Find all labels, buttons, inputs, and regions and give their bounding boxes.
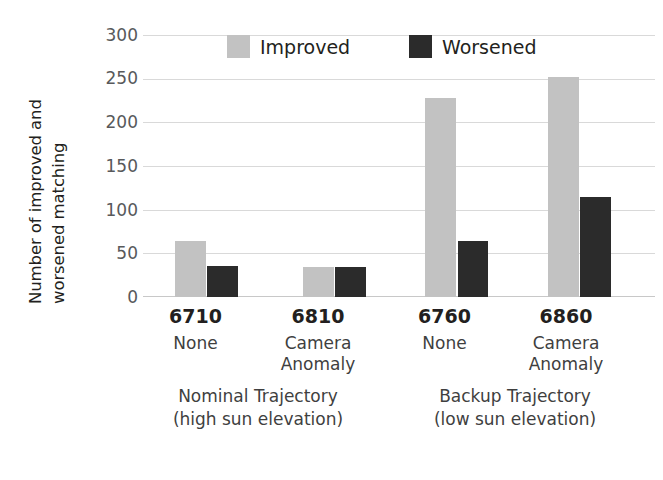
y-tick-250: 250 xyxy=(10,68,138,88)
legend-item-worsened: Worsened xyxy=(409,35,537,58)
bar-improved-6760 xyxy=(425,98,456,297)
x-group-note-backup: (low sun elevation) xyxy=(390,408,640,431)
bar-improved-6810 xyxy=(303,267,334,297)
legend-label-worsened: Worsened xyxy=(442,36,537,58)
y-tick-200: 200 xyxy=(10,112,138,132)
x-category-subtitle-6810: Camera Anomaly xyxy=(268,333,368,375)
y-tick-0: 0 xyxy=(10,287,138,307)
plot-area: Improved Worsened xyxy=(143,35,655,297)
y-tick-100: 100 xyxy=(10,200,138,220)
x-category-id-6710: 6710 xyxy=(143,304,248,329)
bar-worsened-6710 xyxy=(207,266,238,297)
x-category-id-6810: 6810 xyxy=(268,304,368,329)
legend-label-improved: Improved xyxy=(260,36,350,58)
x-category-6710: 6710 None xyxy=(143,304,248,354)
y-tick-50: 50 xyxy=(10,243,138,263)
x-group-note-nominal: (high sun elevation) xyxy=(133,408,383,431)
y-tick-150: 150 xyxy=(10,156,138,176)
x-category-id-6860: 6860 xyxy=(516,304,616,329)
x-category-6860: 6860 Camera Anomaly xyxy=(516,304,616,375)
x-category-id-6760: 6760 xyxy=(392,304,497,329)
legend-item-improved: Improved xyxy=(227,35,350,58)
bar-worsened-6860 xyxy=(580,197,611,297)
legend-swatch-worsened-icon xyxy=(409,35,432,58)
x-group-backup-trajectory: Backup Trajectory (low sun elevation) xyxy=(390,385,640,431)
bar-improved-6860 xyxy=(548,77,579,297)
x-category-subtitle-6860: Camera Anomaly xyxy=(516,333,616,375)
legend: Improved Worsened xyxy=(143,35,655,75)
legend-swatch-improved-icon xyxy=(227,35,250,58)
bar-improved-6710 xyxy=(175,241,206,297)
x-category-6810: 6810 Camera Anomaly xyxy=(268,304,368,375)
x-category-subtitle-6710: None xyxy=(143,333,248,354)
bar-chart: Number of improved and worsened matching… xyxy=(0,0,663,480)
y-tick-300: 300 xyxy=(10,25,138,45)
x-category-subtitle-6760: None xyxy=(392,333,497,354)
x-category-6760: 6760 None xyxy=(392,304,497,354)
x-group-name-nominal: Nominal Trajectory xyxy=(133,385,383,408)
x-group-nominal-trajectory: Nominal Trajectory (high sun elevation) xyxy=(133,385,383,431)
bar-worsened-6760 xyxy=(458,241,488,297)
bar-worsened-6810 xyxy=(335,267,366,297)
x-group-name-backup: Backup Trajectory xyxy=(390,385,640,408)
